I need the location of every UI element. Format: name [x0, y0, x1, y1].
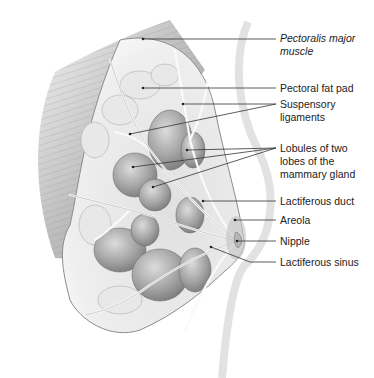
label-lactiferous-sinus: Lactiferous sinus	[280, 256, 359, 269]
label-line: Areola	[280, 214, 310, 227]
label-line: Lactiferous sinus	[280, 256, 359, 269]
label-suspensory-ligaments: Suspensory ligaments	[280, 98, 335, 124]
label-lobules: Lobules of two lobes of the mammary glan…	[280, 142, 355, 181]
label-line: Nipple	[280, 235, 310, 248]
label-nipple: Nipple	[280, 235, 310, 248]
label-line: Pectoralis major	[280, 32, 355, 45]
label-line: muscle	[280, 45, 355, 58]
label-line: mammary gland	[280, 168, 355, 181]
label-line: Pectoral fat pad	[280, 82, 354, 95]
label-line: Lobules of two	[280, 142, 355, 155]
label-pectoral-fat-pad: Pectoral fat pad	[280, 82, 354, 95]
label-line: lobes of the	[280, 155, 355, 168]
label-line: Suspensory	[280, 98, 335, 111]
label-lactiferous-duct: Lactiferous duct	[280, 195, 354, 208]
label-line: ligaments	[280, 111, 335, 124]
label-pectoralis-major: Pectoralis major muscle	[280, 32, 355, 58]
label-areola: Areola	[280, 214, 310, 227]
label-line: Lactiferous duct	[280, 195, 354, 208]
breast-anatomy-diagram: Pectoralis major muscle Pectoral fat pad…	[0, 0, 374, 378]
